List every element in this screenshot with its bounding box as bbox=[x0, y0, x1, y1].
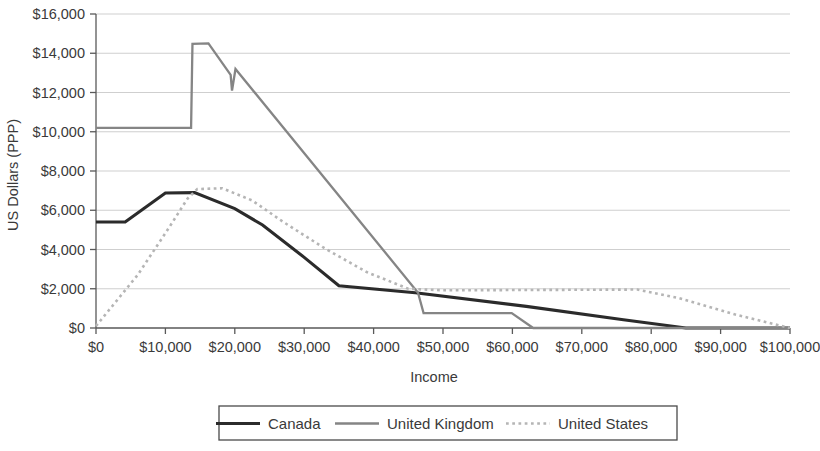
y-tick-label: $6,000 bbox=[41, 202, 85, 218]
y-axis-ticks: $0$2,000$4,000$6,000$8,000$10,000$12,000… bbox=[33, 6, 96, 336]
line-chart: $0$2,000$4,000$6,000$8,000$10,000$12,000… bbox=[0, 0, 820, 451]
y-tick-label: $8,000 bbox=[41, 163, 85, 179]
y-tick-label: $12,000 bbox=[33, 85, 85, 101]
x-tick-label: $40,000 bbox=[347, 339, 399, 355]
y-tick-label: $14,000 bbox=[33, 45, 85, 61]
x-tick-label: $60,000 bbox=[486, 339, 538, 355]
x-tick-label: $10,000 bbox=[139, 339, 191, 355]
chart-container: $0$2,000$4,000$6,000$8,000$10,000$12,000… bbox=[0, 0, 820, 451]
legend-label: United Kingdom bbox=[387, 415, 494, 432]
legend-label: United States bbox=[558, 415, 648, 432]
x-tick-label: $100,000 bbox=[760, 339, 820, 355]
y-tick-label: $0 bbox=[69, 320, 85, 336]
series-line-canada bbox=[96, 193, 790, 328]
y-axis-title: US Dollars (PPP) bbox=[5, 119, 21, 231]
y-tick-label: $4,000 bbox=[41, 242, 85, 258]
x-tick-label: $20,000 bbox=[209, 339, 261, 355]
series-line-united-states bbox=[96, 188, 790, 328]
series-line-united-kingdom bbox=[96, 43, 790, 328]
x-tick-label: $30,000 bbox=[278, 339, 330, 355]
y-tick-label: $10,000 bbox=[33, 124, 85, 140]
y-tick-label: $16,000 bbox=[33, 6, 85, 22]
x-tick-label: $70,000 bbox=[556, 339, 608, 355]
data-series bbox=[96, 43, 790, 328]
x-tick-label: $90,000 bbox=[694, 339, 746, 355]
chart-legend: CanadaUnited KingdomUnited States bbox=[216, 406, 677, 440]
x-tick-label: $80,000 bbox=[625, 339, 677, 355]
gridlines bbox=[96, 14, 790, 289]
x-tick-label: $0 bbox=[88, 339, 104, 355]
legend-label: Canada bbox=[268, 415, 321, 432]
x-axis-ticks: $0$10,000$20,000$30,000$40,000$50,000$60… bbox=[88, 328, 820, 355]
y-tick-label: $2,000 bbox=[41, 281, 85, 297]
x-axis-title: Income bbox=[410, 369, 458, 385]
x-tick-label: $50,000 bbox=[417, 339, 469, 355]
